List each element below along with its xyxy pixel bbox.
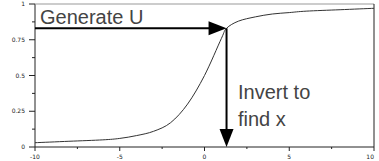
y-tick-label: 1 bbox=[21, 0, 25, 7]
x-tick-label: -10 bbox=[30, 153, 40, 160]
invert-arrowhead bbox=[220, 129, 234, 147]
y-tick-label: 0.75 bbox=[12, 36, 26, 43]
annotation-generate-u: Generate U bbox=[40, 6, 143, 28]
y-tick-label: 0.25 bbox=[12, 107, 26, 114]
cdf-chart: -10-5051000.250.50.751 Generate U Invert… bbox=[0, 0, 379, 161]
annotation-invert-line1: Invert to bbox=[238, 81, 310, 103]
x-tick-label: -5 bbox=[117, 153, 123, 160]
annotation-invert-line2: find x bbox=[238, 108, 286, 130]
x-tick-label: 5 bbox=[287, 153, 291, 160]
y-tick-label: 0 bbox=[21, 143, 25, 150]
y-tick-label: 0.5 bbox=[15, 72, 25, 79]
x-tick-label: 0 bbox=[203, 153, 207, 160]
x-tick-label: 10 bbox=[366, 153, 374, 160]
